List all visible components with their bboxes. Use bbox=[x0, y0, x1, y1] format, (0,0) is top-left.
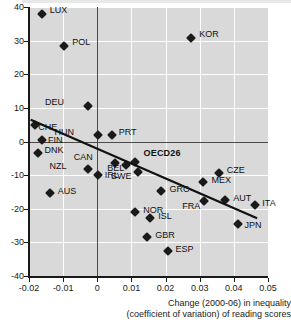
y-tick-label: -40 bbox=[0, 272, 24, 281]
data-point-label: DNK bbox=[45, 146, 64, 155]
data-point-label: LUX bbox=[50, 6, 68, 15]
data-point-marker[interactable] bbox=[33, 148, 43, 158]
data-point-label: GRC bbox=[169, 185, 189, 194]
x-tick-label: 0.04 bbox=[217, 284, 251, 293]
y-tick-label: -30 bbox=[0, 238, 24, 247]
data-point-label: AUT bbox=[233, 194, 251, 203]
y-tick-label: 20 bbox=[0, 70, 24, 79]
data-point-label: AUS bbox=[58, 187, 77, 196]
y-tick-label: 10 bbox=[0, 104, 24, 113]
gridline-horizontal bbox=[29, 74, 268, 75]
data-point-label: KOR bbox=[199, 30, 219, 39]
y-tick-label: 40 bbox=[0, 3, 24, 12]
data-point-label: HUN bbox=[54, 128, 74, 137]
data-point-marker[interactable] bbox=[107, 130, 117, 140]
x-tick-mark bbox=[63, 278, 64, 282]
x-tick-label: 0.03 bbox=[183, 284, 217, 293]
data-point-label: POL bbox=[72, 38, 90, 47]
clipped-top-strip bbox=[22, 0, 291, 3]
data-point-marker[interactable] bbox=[163, 246, 173, 256]
data-point-label: DEU bbox=[45, 98, 64, 107]
x-tick-label: 0.05 bbox=[251, 284, 285, 293]
x-axis-title-line2: (coefficient of variation) of reading sc… bbox=[60, 309, 291, 320]
data-point-label: NZL bbox=[49, 162, 66, 171]
x-tick-mark bbox=[29, 278, 30, 282]
y-tick-mark bbox=[24, 41, 29, 42]
data-point-marker[interactable] bbox=[59, 41, 69, 51]
data-point-label: SWE bbox=[111, 172, 132, 181]
data-point-label: FRA bbox=[182, 202, 200, 211]
data-point-label: CAN bbox=[74, 153, 93, 162]
x-tick-label: -0.01 bbox=[46, 284, 80, 293]
x-tick-mark bbox=[97, 278, 98, 282]
y-tick-mark bbox=[24, 175, 29, 176]
data-point-label: GBR bbox=[155, 231, 175, 240]
y-tick-label: -10 bbox=[0, 171, 24, 180]
data-point-marker[interactable] bbox=[83, 101, 93, 111]
x-tick-label: 0 bbox=[80, 284, 114, 293]
x-axis-title: Change (2000-06) in inequality (coeffici… bbox=[60, 298, 291, 320]
data-point-marker[interactable] bbox=[220, 195, 230, 205]
y-tick-mark bbox=[24, 7, 29, 8]
y-tick-mark bbox=[24, 242, 29, 243]
data-point-marker[interactable] bbox=[142, 232, 152, 242]
plot-area: LUXPOLKORDEUCHEFINHUNPRTDNKOECD26CANBELN… bbox=[29, 7, 268, 276]
data-point-marker[interactable] bbox=[37, 135, 47, 145]
x-tick-label: -0.02 bbox=[12, 284, 46, 293]
data-point-label: ISL bbox=[158, 212, 172, 221]
y-tick-label: 30 bbox=[0, 37, 24, 46]
y-tick-mark bbox=[24, 276, 29, 277]
y-tick-mark bbox=[24, 209, 29, 210]
scatter-chart: LUXPOLKORDEUCHEFINHUNPRTDNKOECD26CANBELN… bbox=[0, 0, 291, 329]
data-point-label: PRT bbox=[119, 128, 137, 137]
data-point-label: FIN bbox=[48, 136, 63, 145]
x-tick-mark bbox=[200, 278, 201, 282]
x-tick-label: 0.02 bbox=[149, 284, 183, 293]
data-point-marker[interactable] bbox=[45, 188, 55, 198]
y-tick-mark bbox=[24, 74, 29, 75]
x-tick-mark bbox=[166, 278, 167, 282]
data-point-label: ITA bbox=[262, 199, 275, 208]
data-point-marker[interactable] bbox=[93, 170, 103, 180]
data-point-marker[interactable] bbox=[93, 130, 103, 140]
x-tick-mark bbox=[234, 278, 235, 282]
data-point-marker[interactable] bbox=[83, 164, 93, 174]
data-point-label: OECD26 bbox=[144, 149, 181, 158]
gridline-horizontal bbox=[29, 108, 268, 109]
y-tick-mark bbox=[24, 142, 29, 143]
x-tick-mark bbox=[131, 278, 132, 282]
y-tick-mark bbox=[24, 108, 29, 109]
data-point-marker[interactable] bbox=[37, 9, 47, 19]
data-point-label: JPN bbox=[245, 221, 262, 230]
zero-line-horizontal bbox=[29, 142, 268, 143]
y-tick-label: 0 bbox=[0, 138, 24, 147]
gridline-vertical bbox=[268, 7, 269, 276]
data-point-label: MEX bbox=[211, 176, 231, 185]
x-tick-label: 0.01 bbox=[114, 284, 148, 293]
x-axis-title-line1: Change (2000-06) in inequality bbox=[60, 298, 291, 309]
x-tick-mark bbox=[268, 278, 269, 282]
y-tick-label: -20 bbox=[0, 205, 24, 214]
gridline-horizontal bbox=[29, 242, 268, 243]
data-point-label: ESP bbox=[176, 245, 194, 254]
